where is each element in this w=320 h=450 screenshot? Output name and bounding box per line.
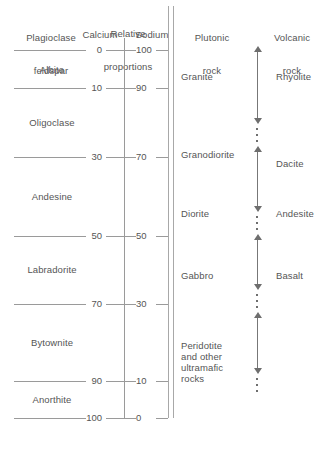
plagioclase-classification-diagram: Plagioclase feldspar Relative proportion… — [0, 0, 320, 450]
mineral-label-bytownite: Bytownite — [10, 337, 94, 348]
boundary-rule-3 — [14, 236, 86, 237]
tick-stub-outer-6 — [156, 418, 168, 419]
tick-stub-outer-1 — [156, 88, 168, 89]
arrow-shaft-1 — [257, 52, 258, 118]
arrowhead-down-2 — [254, 206, 262, 212]
sodium-tick-4: 30 — [136, 298, 156, 309]
arrowhead-down-1 — [254, 118, 262, 124]
tick-stub-right-1 — [124, 88, 136, 89]
arrow-shaft-2 — [257, 152, 258, 206]
sodium-header: Sodium — [126, 29, 178, 40]
tick-stub-left-3 — [106, 236, 124, 237]
gradation-dot — [256, 216, 258, 218]
gradation-dot — [256, 128, 258, 130]
boundary-rule-0 — [14, 50, 86, 51]
gradation-dot — [256, 378, 258, 380]
tick-stub-outer-0 — [156, 50, 168, 51]
plutonic-label-diorite: Diorite — [181, 208, 253, 219]
tick-stub-right-5 — [124, 381, 136, 382]
sodium-tick-2: 70 — [136, 151, 156, 162]
boundary-rule-6 — [14, 418, 86, 419]
plutonic-label-granodiorite: Granodiorite — [181, 149, 261, 160]
tick-stub-left-1 — [106, 88, 124, 89]
gradation-dot — [256, 384, 258, 386]
sodium-tick-3: 50 — [136, 230, 156, 241]
plutonic-column-header: Plutonic rock — [178, 10, 246, 98]
arrow-shaft-4 — [257, 318, 258, 368]
calcium-tick-2: 30 — [86, 151, 102, 162]
boundary-rule-5 — [14, 381, 86, 382]
gradation-dot — [256, 306, 258, 308]
plutonic-label-granite: Granite — [181, 71, 253, 82]
mineral-label-oligoclase: Oligoclase — [10, 117, 94, 128]
mineral-label-andesine: Andesine — [10, 191, 94, 202]
arrowhead-down-4 — [254, 368, 262, 374]
sodium-tick-0: 100 — [136, 44, 156, 55]
tick-stub-left-6 — [106, 418, 124, 419]
volcanic-column-header: Volcanic rock — [264, 10, 320, 98]
divider-line-left — [168, 6, 169, 418]
sodium-tick-6: 0 — [136, 412, 156, 423]
calcium-tick-3: 50 — [86, 230, 102, 241]
boundary-rule-1 — [14, 88, 86, 89]
tick-stub-outer-4 — [156, 304, 168, 305]
proportions-header-line2: proportions — [80, 61, 176, 72]
calcium-tick-6: 100 — [84, 412, 102, 423]
calcium-header: Calcium — [74, 29, 126, 40]
gradation-dot — [256, 390, 258, 392]
tick-stub-outer-5 — [156, 381, 168, 382]
volcanic-label-dacite: Dacite — [276, 158, 320, 169]
volcanic-label-andesite: Andesite — [276, 208, 320, 219]
gradation-dot — [256, 222, 258, 224]
mineral-label-albite: Albite — [10, 64, 94, 75]
plutonic-label-peridotite: Peridotite and other ultramafic rocks — [181, 340, 253, 384]
sodium-tick-1: 90 — [136, 82, 156, 93]
gradation-dot — [256, 228, 258, 230]
tick-stub-right-0 — [124, 50, 136, 51]
volcanic-header-line1: Volcanic — [264, 32, 320, 43]
boundary-rule-2 — [14, 157, 86, 158]
boundary-rule-4 — [14, 304, 86, 305]
tick-stub-left-4 — [106, 304, 124, 305]
plutonic-header-line1: Plutonic — [178, 32, 246, 43]
plutonic-label-gabbro: Gabbro — [181, 270, 253, 281]
tick-stub-right-3 — [124, 236, 136, 237]
tick-stub-left-0 — [106, 50, 124, 51]
arrow-shaft-3 — [257, 240, 258, 284]
gradation-dot — [256, 294, 258, 296]
calcium-tick-5: 90 — [86, 375, 102, 386]
tick-stub-left-5 — [106, 381, 124, 382]
mineral-label-anorthite: Anorthite — [10, 394, 94, 405]
rock-gradation-arrow-column — [252, 0, 264, 450]
tick-stub-right-4 — [124, 304, 136, 305]
divider-line-right — [173, 6, 174, 418]
tick-stub-outer-2 — [156, 157, 168, 158]
sodium-tick-5: 10 — [136, 375, 156, 386]
arrowhead-down-3 — [254, 284, 262, 290]
calcium-tick-1: 10 — [86, 82, 102, 93]
gradation-dot — [256, 300, 258, 302]
volcanic-label-basalt: Basalt — [276, 270, 320, 281]
calcium-tick-0: 0 — [88, 44, 102, 55]
gradation-dot — [256, 134, 258, 136]
mineral-label-labradorite: Labradorite — [10, 264, 94, 275]
tick-stub-right-2 — [124, 157, 136, 158]
tick-stub-left-2 — [106, 157, 124, 158]
gradation-dot — [256, 140, 258, 142]
calcium-tick-4: 70 — [86, 298, 102, 309]
tick-stub-right-6 — [124, 418, 136, 419]
tick-stub-outer-3 — [156, 236, 168, 237]
volcanic-label-rhyolite: Rhyolite — [276, 71, 320, 82]
proportions-center-axis — [124, 38, 125, 418]
